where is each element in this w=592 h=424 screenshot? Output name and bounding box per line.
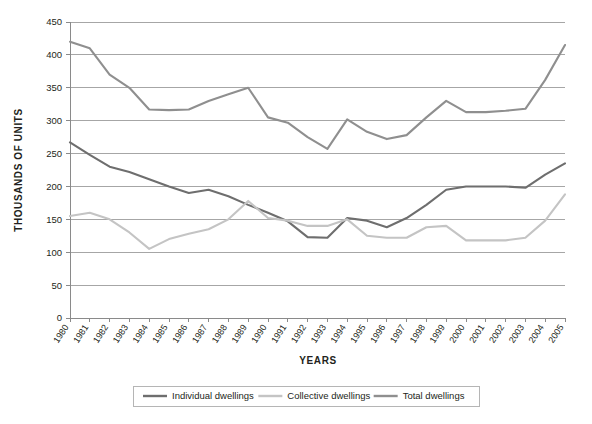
y-axis-tick-label: 450	[46, 16, 62, 27]
y-axis-title: THOUSANDS OF UNITS	[13, 108, 24, 232]
y-axis-tick-label: 200	[46, 181, 62, 192]
y-axis-tick-label: 150	[46, 214, 62, 225]
legend-label-1: Collective dwellings	[287, 390, 370, 401]
x-axis-title: YEARS	[299, 355, 336, 366]
legend-label-2: Total dwellings	[403, 390, 465, 401]
y-axis-tick-label: 0	[57, 312, 62, 323]
legend-label-0: Individual dwellings	[172, 390, 254, 401]
y-axis-tick-label: 100	[46, 247, 62, 258]
y-axis-tick-label: 350	[46, 82, 62, 93]
y-axis-tick-label: 400	[46, 49, 62, 60]
chart-canvas: 050100150200250300350400450 198019811982…	[0, 0, 592, 424]
y-axis-tick-label: 50	[51, 280, 62, 291]
y-axis-tick-label: 250	[46, 148, 62, 159]
chart-legend: Individual dwellingsCollective dwellings…	[133, 386, 479, 406]
y-axis-tick-label: 300	[46, 115, 62, 126]
line-chart-figure: 050100150200250300350400450 198019811982…	[0, 0, 592, 424]
